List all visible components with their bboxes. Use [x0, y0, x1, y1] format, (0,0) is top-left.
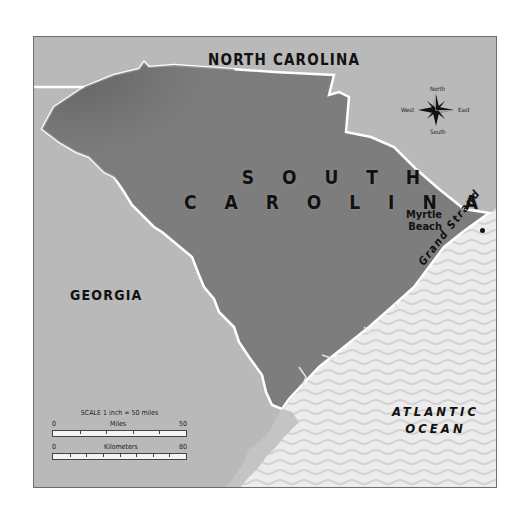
- city-marker-icon: [480, 228, 485, 233]
- label-north-carolina: NORTH CAROLINA: [208, 51, 360, 69]
- scale-km-bar: [52, 453, 187, 460]
- scale-miles-label: Miles: [110, 420, 126, 428]
- scale-km-labels: 0 Kilometers 80: [52, 443, 187, 453]
- compass-star-icon: [417, 93, 455, 127]
- label-georgia: GEORGIA: [70, 287, 143, 303]
- label-south-carolina-line1: S O U T H: [184, 165, 489, 190]
- scale-title: SCALE 1 inch = 50 miles: [52, 409, 187, 417]
- scale-miles-max: 50: [179, 420, 187, 428]
- scale-km-min: 0: [52, 443, 56, 451]
- map-scale: SCALE 1 inch = 50 miles 0 Miles 50 0 Kil…: [52, 409, 187, 466]
- scale-km-label: Kilometers: [104, 443, 138, 451]
- compass-west-label: West: [401, 106, 414, 113]
- compass-south-label: South: [430, 128, 446, 135]
- label-myrtle-beach: Myrtle Beach: [406, 209, 442, 233]
- map-frame: NORTH CAROLINA GEORGIA S O U T H C A R O…: [33, 36, 497, 488]
- label-south-carolina: S O U T H C A R O L I N A: [184, 165, 489, 215]
- scale-miles-labels: 0 Miles 50: [52, 420, 187, 430]
- compass-north-label: North: [430, 85, 445, 92]
- compass-rose: North South West East: [401, 85, 471, 135]
- scale-km-max: 80: [179, 443, 187, 451]
- label-atlantic-ocean: ATLANTIC OCEAN: [392, 403, 479, 437]
- scale-miles-bar: [52, 430, 187, 437]
- compass-east-label: East: [458, 106, 470, 113]
- label-atlantic-ocean-line2: OCEAN: [392, 420, 479, 437]
- label-south-carolina-line2: C A R O L I N A: [184, 190, 489, 215]
- scale-miles-min: 0: [52, 420, 56, 428]
- label-atlantic-ocean-line1: ATLANTIC: [392, 403, 479, 420]
